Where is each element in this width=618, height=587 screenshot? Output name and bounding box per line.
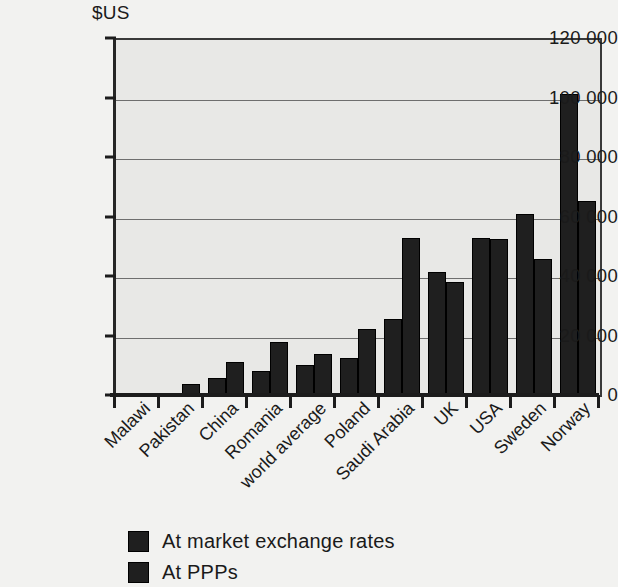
bar xyxy=(560,94,578,397)
bar xyxy=(490,239,508,397)
legend-swatch xyxy=(128,531,149,552)
bar-chart: $US 020 00040 00060 00080 000100 000120 … xyxy=(0,0,618,587)
bar xyxy=(270,342,288,397)
bar xyxy=(428,272,446,397)
y-axis-tick-mark xyxy=(105,334,116,337)
y-axis-tick-label: 20 000 xyxy=(514,325,618,347)
x-axis-label: Norway xyxy=(537,398,595,456)
y-axis-tick-mark xyxy=(105,96,116,99)
legend: At market exchange ratesAt PPPs xyxy=(128,528,395,586)
bar xyxy=(578,201,596,397)
x-axis-line xyxy=(110,393,599,397)
y-axis-tick-mark xyxy=(105,37,116,40)
y-axis-tick-mark xyxy=(105,156,116,159)
y-axis-tick-label: 120 000 xyxy=(514,27,618,49)
y-axis-tick-label: 40 000 xyxy=(514,265,618,287)
bar xyxy=(314,354,332,397)
bar-group xyxy=(120,40,155,397)
x-axis-label: UK xyxy=(431,398,464,431)
bar xyxy=(384,319,402,397)
y-axis-tick-mark xyxy=(105,215,116,218)
bar-group xyxy=(384,40,419,397)
bar-group xyxy=(252,40,287,397)
y-axis-tick-label: 60 000 xyxy=(514,206,618,228)
bar xyxy=(358,329,376,397)
x-axis-labels: MalawiPakistanChinaRomaniaworld averageP… xyxy=(0,398,618,503)
bar-group xyxy=(208,40,243,397)
y-axis-unit-label: $US xyxy=(92,2,130,24)
legend-label: At PPPs xyxy=(162,561,238,584)
bar xyxy=(340,358,358,397)
legend-swatch xyxy=(128,562,149,583)
bar-group xyxy=(428,40,463,397)
legend-item: At market exchange rates xyxy=(128,528,395,555)
y-axis-tick-mark xyxy=(105,275,116,278)
bar-group xyxy=(340,40,375,397)
bar xyxy=(402,238,420,397)
bar-group xyxy=(472,40,507,397)
bar xyxy=(472,238,490,397)
bar-group xyxy=(164,40,199,397)
legend-item: At PPPs xyxy=(128,559,395,586)
y-axis-tick-label: 80 000 xyxy=(514,146,618,168)
bar xyxy=(516,214,534,397)
bar xyxy=(226,362,244,397)
legend-label: At market exchange rates xyxy=(162,530,395,553)
y-axis-tick-label: 100 000 xyxy=(514,87,618,109)
bar xyxy=(446,282,464,397)
bar-group xyxy=(296,40,331,397)
